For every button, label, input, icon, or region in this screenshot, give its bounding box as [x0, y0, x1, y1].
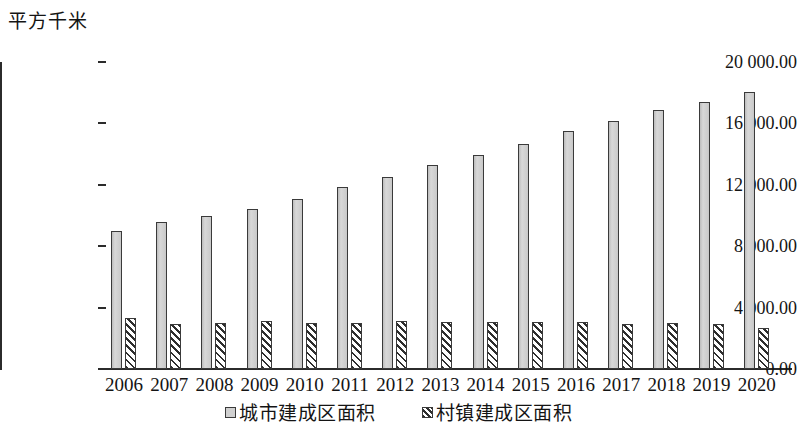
bar-city — [201, 216, 212, 369]
solid-gray-swatch-icon — [225, 407, 236, 418]
bar-city — [247, 209, 258, 369]
x-axis-tick-label: 2013 — [417, 374, 463, 396]
bar-city — [382, 177, 393, 369]
bar-group — [201, 62, 227, 369]
x-axis-tick-label: 2011 — [327, 374, 373, 396]
x-axis-tick-label: 2012 — [372, 374, 418, 396]
bar-city — [653, 110, 664, 369]
x-axis-tick-label: 2017 — [598, 374, 644, 396]
bar-city — [563, 131, 574, 369]
x-axis-tick-label: 2009 — [237, 374, 283, 396]
bar-group — [427, 62, 453, 369]
x-axis-tick-label: 2020 — [734, 374, 780, 396]
bar-group — [653, 62, 679, 369]
bar-village — [261, 321, 272, 369]
hatched-swatch-icon — [422, 407, 433, 418]
bar-village — [441, 322, 452, 369]
bar-village — [667, 323, 678, 370]
bar-group — [247, 62, 273, 369]
bar-village — [125, 318, 136, 369]
bar-group — [382, 62, 408, 369]
bar-city — [744, 92, 755, 369]
bar-city — [427, 165, 438, 369]
bar-village — [758, 328, 769, 369]
x-axis-tick-label: 2018 — [643, 374, 689, 396]
bar-group — [518, 62, 544, 369]
x-axis-tick-label: 2015 — [508, 374, 554, 396]
x-axis-tick-label: 2014 — [463, 374, 509, 396]
legend-item-village[interactable]: 村镇建成区面积 — [422, 398, 573, 425]
chart-legend: 城市建成区面积 村镇建成区面积 — [0, 398, 797, 425]
bar-group — [156, 62, 182, 369]
y-axis-unit-label: 平方千米 — [8, 6, 88, 33]
bar-group — [292, 62, 318, 369]
bar-village — [577, 322, 588, 369]
x-axis-tick-label: 2016 — [553, 374, 599, 396]
bar-city — [156, 222, 167, 369]
x-axis-tick-label: 2019 — [689, 374, 735, 396]
bar-village — [713, 324, 724, 369]
bar-village — [306, 323, 317, 370]
legend-label-village: 村镇建成区面积 — [436, 398, 573, 425]
bar-chart-figure: 平方千米 0.004 000.008 000.0012 000.0016 000… — [0, 0, 797, 427]
x-axis-tick-label: 2007 — [146, 374, 192, 396]
bar-city — [518, 144, 529, 369]
bar-group — [744, 62, 770, 369]
bar-city — [473, 155, 484, 369]
y-axis-line — [0, 62, 2, 370]
x-axis-tick-label: 2006 — [101, 374, 147, 396]
bar-village — [351, 323, 362, 369]
bar-group — [473, 62, 499, 369]
bar-group — [111, 62, 137, 369]
bar-group — [699, 62, 725, 369]
legend-label-city: 城市建成区面积 — [239, 398, 376, 425]
bar-city — [292, 199, 303, 369]
bar-group — [337, 62, 363, 369]
bar-village — [170, 324, 181, 369]
bar-village — [532, 322, 543, 369]
bar-village — [487, 322, 498, 369]
bar-city — [608, 121, 619, 369]
bar-city — [699, 102, 710, 369]
bar-group — [608, 62, 634, 369]
bar-city — [337, 187, 348, 369]
bar-group — [563, 62, 589, 369]
x-axis-tick-label: 2010 — [282, 374, 328, 396]
bar-village — [396, 321, 407, 369]
plot-area — [105, 62, 790, 369]
x-axis-tick-label: 2008 — [191, 374, 237, 396]
bar-village — [215, 323, 226, 369]
bar-city — [111, 231, 122, 369]
legend-item-city[interactable]: 城市建成区面积 — [225, 398, 376, 425]
bar-village — [622, 324, 633, 369]
